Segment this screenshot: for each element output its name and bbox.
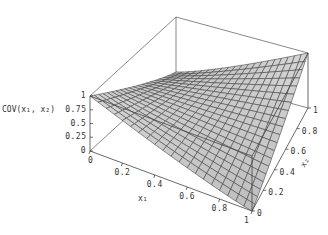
y-tick-label: 0.6 (291, 147, 307, 156)
x-tick-label: 0.6 (179, 192, 195, 201)
x-tick-label: 0.4 (147, 180, 163, 189)
z-tick-label: 0 (81, 146, 86, 155)
x-tick-label: 0 (88, 156, 93, 165)
y-tick-label: 1 (313, 106, 318, 115)
x-axis-title: x₁ (138, 194, 148, 203)
x-tick-label: 0.2 (114, 168, 130, 177)
x-tick-label: 0.8 (212, 204, 228, 213)
z-tick-label: 0.75 (65, 105, 86, 114)
z-tick-label: 0.5 (70, 119, 86, 128)
y-tick-label: 0.4 (279, 168, 295, 177)
y-tick-label: 0.2 (268, 188, 284, 197)
y-tick-label: 0 (257, 209, 262, 218)
x-tick-label: 1 (244, 216, 249, 225)
z-axis-title: COV(x₁, x₂) (2, 105, 55, 114)
z-tick-label: 0.25 (65, 132, 86, 141)
surface-mesh (90, 53, 308, 211)
y-tick-label: 0.8 (302, 127, 318, 136)
surface-plot (0, 0, 328, 235)
z-tick-label: 1 (81, 91, 86, 100)
